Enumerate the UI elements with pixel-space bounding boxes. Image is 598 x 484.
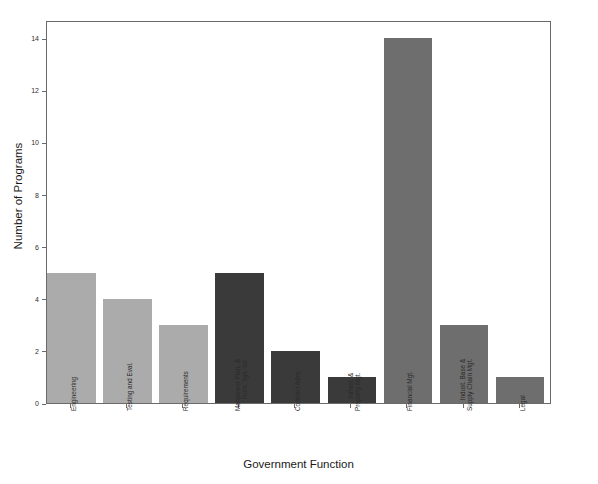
plot-area <box>47 22 550 403</box>
plot-frame <box>46 21 551 404</box>
x-tick-label: Contract Adm. <box>294 371 301 412</box>
y-tick-label: 4 <box>35 295 39 304</box>
y-tick-label: 2 <box>35 347 39 356</box>
y-tick-label: 8 <box>35 191 39 200</box>
x-tick-label-line: Supply Chain Mgt. <box>466 359 473 411</box>
x-tick-label-line: Testing and Eval. <box>126 362 133 411</box>
y-tick-label: 12 <box>31 86 39 95</box>
x-tick-label-line: Indust. Base & <box>459 359 466 411</box>
x-tick-label: Legal <box>519 395 526 411</box>
x-tick-label-line: Financial Mgt. <box>406 371 413 411</box>
x-tick-label: Requirements <box>182 371 189 411</box>
x-tick-label: Financial Mgt. <box>406 371 413 411</box>
x-axis-title: Government Function <box>46 458 551 470</box>
bar-chart: 02468101214 Number of Programs Engineeri… <box>0 0 598 484</box>
x-tick-label: Infrast. &Property Mgt. <box>347 373 362 411</box>
y-tick-label: 0 <box>35 399 39 408</box>
x-tick-label: Indust. Base &Supply Chain Mgt. <box>459 359 474 411</box>
x-tick-label: Engineering <box>70 377 77 411</box>
x-tick-label: Testing and Eval. <box>126 362 133 411</box>
y-axis-title: Number of Programs <box>12 116 24 276</box>
y-tick-label: 6 <box>35 243 39 252</box>
x-tick-label-line: Property Mgt. <box>354 373 361 411</box>
x-tick-label-line: Hum. Sys. Int. <box>242 359 249 411</box>
x-tick-label-line: Contract Adm. <box>294 371 301 412</box>
y-tick-label: 10 <box>31 138 39 147</box>
x-tick-label-line: Legal <box>519 395 526 411</box>
x-tick-label: Manpower Plan. &Hum. Sys. Int. <box>234 359 249 411</box>
x-tick-label-line: Requirements <box>182 371 189 411</box>
x-tick-label-line: Infrast. & <box>347 373 354 411</box>
bar <box>384 38 433 403</box>
y-tick-label: 14 <box>31 34 39 43</box>
x-tick-label-line: Engineering <box>70 377 77 411</box>
